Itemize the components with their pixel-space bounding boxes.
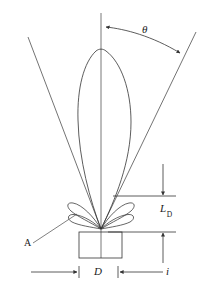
ld-label-base: L [160, 202, 166, 214]
figure-canvas [0, 0, 208, 293]
distance-label: i [166, 266, 169, 277]
antenna-aperture-box [79, 232, 122, 258]
left-beam-edge-line [28, 37, 101, 229]
right-beam-edge-line [101, 32, 196, 229]
aperture-label: D [94, 266, 102, 277]
ld-label: LD [160, 203, 172, 217]
callout-leader-line [33, 214, 77, 243]
ld-label-subscript: D [167, 210, 172, 219]
callout-label-a: A [24, 238, 31, 248]
side-lobe-right-upper [101, 203, 134, 229]
antenna-pattern-figure: θ LD D i A [0, 0, 208, 293]
theta-label: θ [142, 24, 147, 35]
main-radiation-lobe [78, 49, 131, 229]
